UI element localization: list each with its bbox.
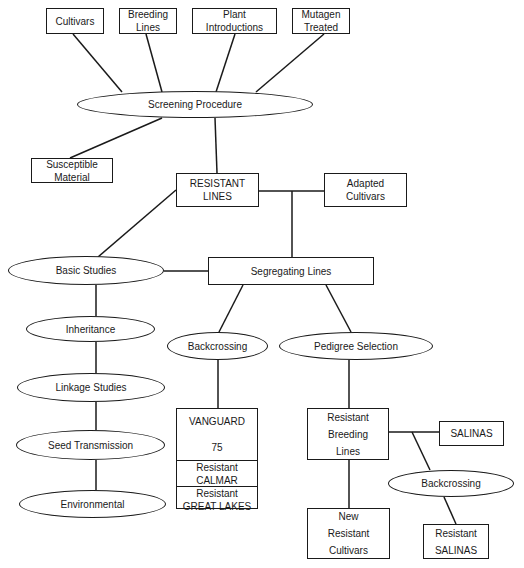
pedigree-selection-label: Pedigree Selection	[314, 340, 398, 353]
great-lakes-line1: Resistant	[196, 487, 238, 500]
susceptible-line2: Material	[54, 171, 90, 184]
nrc-line3: Cultivars	[329, 542, 368, 559]
source-plant-introductions: Plant Introductions	[192, 8, 277, 34]
nrc-line2: Resistant	[328, 525, 370, 542]
seed-transmission: Seed Transmission	[16, 430, 165, 460]
resistant-salinas-line2: SALINAS	[435, 542, 477, 559]
source-cultivars-label: Cultivars	[56, 15, 95, 28]
calmar-line2: CALMAR	[196, 474, 238, 487]
linkage-studies: Linkage Studies	[17, 373, 165, 402]
source-mutagen-treated: Mutagen Treated	[292, 8, 350, 34]
adapted-cultivars-line2: Cultivars	[346, 190, 385, 203]
susceptible-line1: Susceptible	[46, 158, 98, 171]
environmental: Environmental	[19, 490, 166, 518]
source-breeding-lines: Breeding Lines	[119, 8, 177, 34]
pedigree-selection: Pedigree Selection	[279, 332, 433, 360]
rbl-line2: Breeding	[328, 426, 368, 443]
susceptible-material: Susceptible Material	[31, 158, 113, 183]
environmental-label: Environmental	[61, 498, 125, 511]
new-resistant-cultivars: New Resistant Cultivars	[307, 508, 390, 559]
resistant-lines: RESISTANT LINES	[176, 173, 259, 207]
source-plant-introductions-line2: Introductions	[206, 21, 263, 34]
segregating-lines-label: Segregating Lines	[251, 265, 332, 278]
source-cultivars: Cultivars	[46, 8, 104, 34]
vanguard-75: VANGUARD 75	[177, 409, 257, 460]
resistant-breeding-lines: Resistant Breeding Lines	[307, 408, 389, 460]
rbl-line1: Resistant	[327, 409, 369, 426]
vanguard-line1: VANGUARD	[189, 409, 245, 435]
backcrossing-results: VANGUARD 75 Resistant CALMAR Resistant G…	[176, 408, 258, 509]
resistant-lines-line2: LINES	[203, 190, 232, 203]
adapted-cultivars-line1: Adapted	[347, 177, 384, 190]
screening-procedure: Screening Procedure	[77, 91, 313, 118]
adapted-cultivars: Adapted Cultivars	[324, 173, 407, 207]
great-lakes-line2: GREAT LAKES	[183, 500, 252, 513]
backcrossing-2-label: Backcrossing	[421, 477, 480, 490]
rbl-line3: Lines	[336, 443, 360, 460]
source-breeding-lines-line1: Breeding	[128, 8, 168, 21]
segregating-lines: Segregating Lines	[208, 257, 374, 285]
screening-procedure-label: Screening Procedure	[148, 98, 242, 111]
salinas: SALINAS	[439, 421, 504, 446]
seed-transmission-label: Seed Transmission	[48, 439, 133, 452]
inheritance-label: Inheritance	[66, 323, 115, 336]
nrc-line1: New	[338, 508, 358, 525]
resistant-salinas-line1: Resistant	[435, 525, 477, 542]
backcrossing-label: Backcrossing	[188, 340, 247, 353]
backcrossing-2: Backcrossing	[388, 470, 514, 497]
basic-studies: Basic Studies	[8, 256, 164, 285]
resistant-lines-line1: RESISTANT	[190, 177, 245, 190]
source-mutagen-treated-line2: Treated	[304, 21, 338, 34]
resistant-great-lakes: Resistant GREAT LAKES	[177, 486, 257, 513]
backcrossing: Backcrossing	[167, 332, 268, 360]
source-mutagen-treated-line1: Mutagen	[302, 8, 341, 21]
inheritance: Inheritance	[26, 316, 155, 342]
calmar-line1: Resistant	[196, 461, 238, 474]
linkage-studies-label: Linkage Studies	[55, 381, 126, 394]
resistant-calmar: Resistant CALMAR	[177, 460, 257, 486]
vanguard-line2: 75	[211, 435, 222, 461]
source-plant-introductions-line1: Plant	[223, 8, 246, 21]
salinas-label: SALINAS	[450, 427, 492, 440]
basic-studies-label: Basic Studies	[56, 264, 117, 277]
source-breeding-lines-line2: Lines	[136, 21, 160, 34]
resistant-salinas: Resistant SALINAS	[423, 524, 489, 559]
